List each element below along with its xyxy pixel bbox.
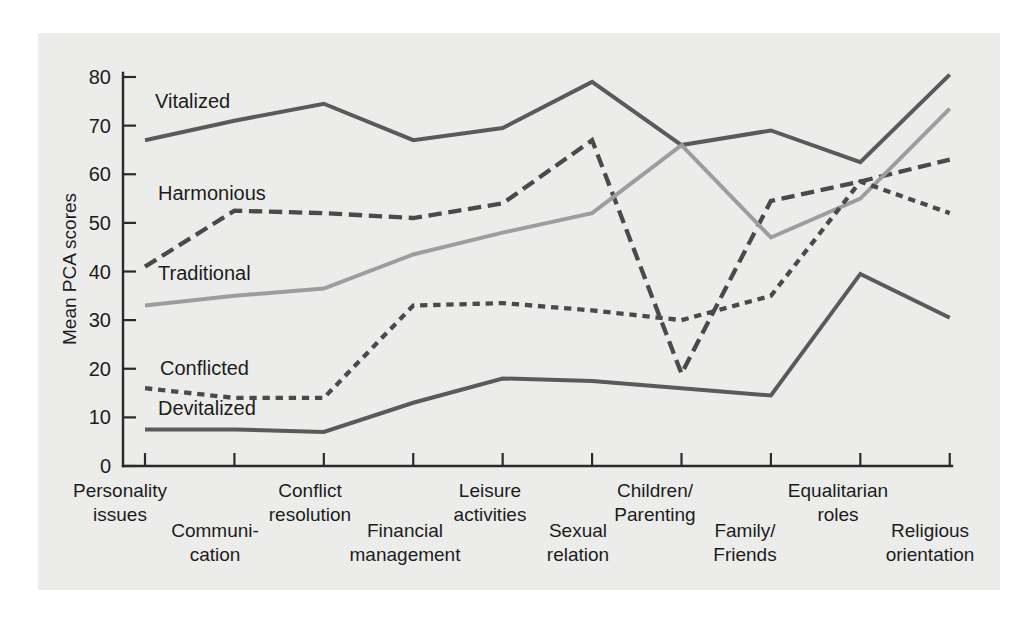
category-label-line1: Personality (73, 480, 167, 501)
y-tick-label-20: 20 (89, 358, 111, 380)
x-axis-category-labels: PersonalityissuesCommuni-cationConflictr… (73, 480, 974, 565)
category-label-line2: resolution (269, 504, 351, 525)
y-axis-tick-labels: 01020304050607080 (89, 66, 111, 477)
y-tick-label-70: 70 (89, 115, 111, 137)
category-label-3: Financialmanagement (350, 520, 462, 565)
category-label-line1: Equalitarian (788, 480, 888, 501)
y-tick-label-60: 60 (89, 163, 111, 185)
category-label-line2: orientation (886, 544, 975, 565)
category-label-line1: Family/ (714, 520, 776, 541)
category-label-line1: Communi- (171, 520, 259, 541)
y-tick-label-30: 30 (89, 309, 111, 331)
x-axis-ticks (145, 453, 950, 466)
category-label-line1: Leisure (459, 480, 521, 501)
y-tick-label-80: 80 (89, 66, 111, 88)
y-tick-label-10: 10 (89, 406, 111, 428)
y-axis-ticks (123, 77, 136, 466)
figure-container: Mean PCA scores 01020304050607080 Vitali… (0, 0, 1017, 625)
category-label-0: Personalityissues (73, 480, 167, 525)
category-label-line1: Conflict (278, 480, 342, 501)
category-label-line1: Financial (367, 520, 443, 541)
series-label-conflicted: Conflicted (160, 357, 249, 379)
category-label-line2: Friends (713, 544, 776, 565)
category-label-line1: Sexual (549, 520, 607, 541)
y-tick-label-0: 0 (100, 455, 111, 477)
category-label-line1: Religious (891, 520, 969, 541)
y-tick-label-50: 50 (89, 212, 111, 234)
series-label-vitalized: Vitalized (155, 90, 230, 112)
category-label-8: Equalitarianroles (788, 480, 888, 525)
category-label-line2: activities (454, 504, 527, 525)
category-label-line2: cation (190, 544, 241, 565)
line-chart: Mean PCA scores 01020304050607080 Vitali… (0, 0, 1017, 625)
series-line-devitalized (145, 274, 950, 432)
category-label-7: Family/Friends (713, 520, 776, 565)
category-label-6: Children/Parenting (614, 480, 695, 525)
series-lines (145, 75, 950, 432)
y-axis-title-text: Mean PCA scores (59, 193, 80, 345)
series-line-vitalized (145, 75, 950, 163)
category-label-5: Sexualrelation (547, 520, 609, 565)
category-label-line2: management (350, 544, 462, 565)
category-label-line1: Children/ (617, 480, 694, 501)
series-label-harmonious: Harmonious (158, 182, 266, 204)
series-line-traditional (145, 109, 950, 306)
y-tick-label-40: 40 (89, 261, 111, 283)
category-label-line2: issues (93, 504, 147, 525)
series-inline-labels: VitalizedHarmoniousTraditionalConflicted… (155, 90, 266, 419)
series-label-traditional: Traditional (158, 262, 251, 284)
category-label-9: Religiousorientation (886, 520, 975, 565)
series-label-devitalized: Devitalized (158, 397, 256, 419)
category-label-1: Communi-cation (171, 520, 259, 565)
category-label-line2: Parenting (614, 504, 695, 525)
category-label-line2: roles (817, 504, 858, 525)
y-axis-title: Mean PCA scores (59, 193, 80, 345)
category-label-2: Conflictresolution (269, 480, 351, 525)
category-label-line2: relation (547, 544, 609, 565)
series-line-harmonious (145, 140, 950, 373)
category-label-4: Leisureactivities (454, 480, 527, 525)
